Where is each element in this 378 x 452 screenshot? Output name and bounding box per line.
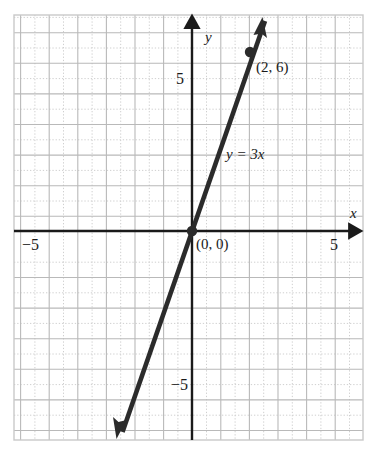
y-tick-label-minus-5: −5 [171, 376, 188, 393]
point-2-6 [245, 47, 255, 57]
y-tick-label-5: 5 [176, 70, 184, 87]
x-tick-label-minus-5: −5 [22, 236, 39, 253]
coordinate-plane: y x 5 −5 −5 5 y = 3x (0, 0) (2, 6) [0, 0, 378, 452]
point-2-6-annotation: (2, 6) [256, 59, 289, 76]
origin-annotation: (0, 0) [196, 236, 229, 253]
equation-annotation: y = 3x [224, 146, 265, 162]
y-axis-label: y [203, 29, 212, 45]
x-axis-label: x [349, 205, 357, 221]
graph-figure: y x 5 −5 −5 5 y = 3x (0, 0) (2, 6) [0, 0, 378, 452]
point-origin [187, 226, 197, 236]
x-tick-label-5: 5 [330, 236, 338, 253]
